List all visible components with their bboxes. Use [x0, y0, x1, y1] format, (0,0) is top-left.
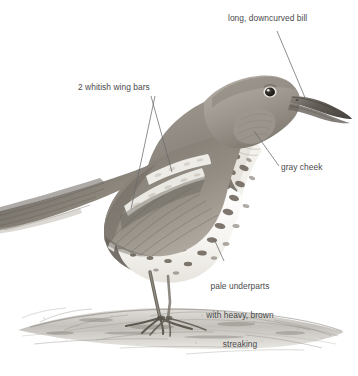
bird-illustration-plate — [0, 0, 358, 376]
annotation-label-underparts: pale underparts with heavy, brown streak… — [180, 263, 300, 359]
annotation-label-gray-cheek: gray cheek — [281, 163, 322, 173]
annotation-label-underparts-line-2: with heavy, brown — [180, 311, 300, 321]
annotation-label-underparts-line-3: streaking — [180, 340, 300, 350]
bill — [288, 96, 352, 123]
annotation-label-bill: long, downcurved bill — [228, 14, 307, 24]
annotation-label-underparts-line-1: pale underparts — [180, 282, 300, 292]
annotation-label-wing-bars: 2 whitish wing bars — [78, 83, 150, 93]
